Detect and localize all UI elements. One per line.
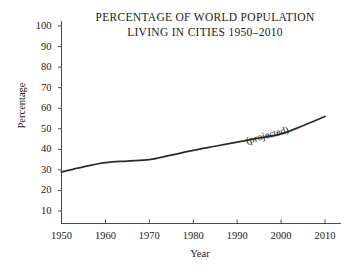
y-tick-label: 100: [26, 21, 52, 31]
y-axis-title: Percentage: [16, 71, 27, 141]
x-tick-label: 1970: [129, 230, 169, 241]
y-tick-label: 50: [26, 124, 52, 134]
y-tick-label: 30: [26, 165, 52, 175]
x-tick-label: 2000: [261, 230, 301, 241]
y-tick-label: 70: [26, 83, 52, 93]
y-tick-label: 20: [26, 185, 52, 195]
y-tick-label: 60: [26, 103, 52, 113]
x-tick-label: 1960: [85, 230, 125, 241]
x-tick-label: 1980: [173, 230, 213, 241]
y-tick-label: 40: [26, 144, 52, 154]
chart-figure: PERCENTAGE OF WORLD POPULATION LIVING IN…: [0, 0, 360, 272]
y-tick-label: 80: [26, 62, 52, 72]
x-tick-label: 1990: [217, 230, 257, 241]
y-tick-label: 10: [26, 206, 52, 216]
x-tick-label: 2010: [305, 230, 345, 241]
x-tick-label: 1950: [42, 230, 82, 241]
x-axis-ticks: [62, 220, 326, 224]
y-axis-ticks: [58, 26, 62, 211]
y-tick-label: 90: [26, 42, 52, 52]
x-axis-title: Year: [160, 248, 240, 259]
